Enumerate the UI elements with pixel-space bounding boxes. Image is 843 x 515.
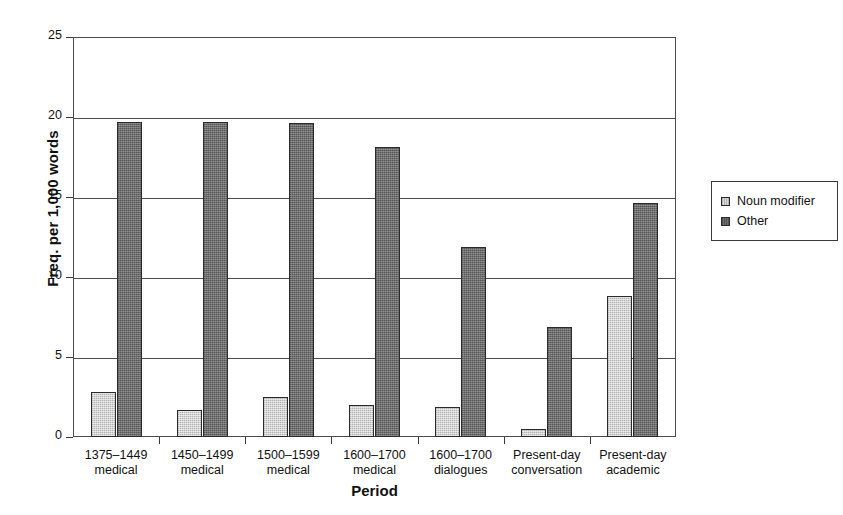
bar-group	[504, 37, 590, 437]
bar-other[interactable]	[547, 327, 572, 437]
bar-other[interactable]	[461, 247, 486, 437]
bar-noun[interactable]	[435, 407, 460, 437]
bar-other[interactable]	[375, 147, 400, 437]
y-tick-mark	[66, 37, 73, 38]
bar-noun[interactable]	[91, 392, 116, 437]
y-tick-mark	[66, 197, 73, 198]
x-tick-mark	[504, 437, 505, 444]
legend-label: Noun modifier	[737, 194, 815, 208]
y-tick: 20	[0, 117, 73, 118]
bar-noun[interactable]	[263, 397, 288, 437]
bar-other[interactable]	[633, 203, 658, 437]
bars-layer	[73, 37, 676, 437]
legend-swatch-icon	[721, 197, 730, 206]
bar-group	[245, 37, 331, 437]
bar-other[interactable]	[203, 122, 228, 437]
bar-chart-figure: Freq. per 1,000 words 0510152025 1375–14…	[0, 0, 843, 515]
y-tick-label: 25	[48, 28, 62, 42]
cropped-caption	[0, 0, 843, 4]
x-tick-mark	[245, 437, 246, 444]
y-tick-mark	[66, 437, 73, 438]
bar-group	[73, 37, 159, 437]
bar-noun[interactable]	[521, 429, 546, 437]
x-tick-mark	[331, 437, 332, 444]
x-tick-mark	[159, 437, 160, 444]
y-tick-label: 0	[55, 428, 62, 442]
y-tick-mark	[66, 357, 73, 358]
y-tick: 25	[0, 37, 73, 38]
y-tick: 15	[0, 197, 73, 198]
bar-other[interactable]	[289, 123, 314, 437]
bar-group	[418, 37, 504, 437]
y-tick-mark	[66, 117, 73, 118]
y-tick-label: 10	[48, 268, 62, 282]
y-tick-label: 15	[48, 188, 62, 202]
y-tick: 0	[0, 437, 73, 438]
bar-noun[interactable]	[349, 405, 374, 437]
x-category-label: Present-dayacademic	[573, 448, 693, 478]
x-tick-mark	[590, 437, 591, 444]
bar-group	[159, 37, 245, 437]
legend-label: Other	[737, 214, 768, 228]
y-tick-label: 5	[55, 348, 62, 362]
bar-noun[interactable]	[607, 296, 632, 437]
x-category-line: Present-day	[573, 448, 693, 463]
chart-legend: Noun modifierOther	[711, 181, 838, 241]
legend-swatch-icon	[721, 217, 730, 226]
y-tick: 10	[0, 277, 73, 278]
legend-item[interactable]: Other	[712, 211, 837, 231]
y-tick-label: 20	[48, 108, 62, 122]
bar-noun[interactable]	[177, 410, 202, 437]
x-axis-title: Period	[73, 482, 676, 499]
x-tick-mark	[418, 437, 419, 444]
x-category-line: academic	[573, 463, 693, 478]
legend-item[interactable]: Noun modifier	[712, 191, 837, 211]
bar-group	[590, 37, 676, 437]
y-tick-mark	[66, 277, 73, 278]
bar-group	[331, 37, 417, 437]
bar-other[interactable]	[117, 122, 142, 437]
y-tick: 5	[0, 357, 73, 358]
